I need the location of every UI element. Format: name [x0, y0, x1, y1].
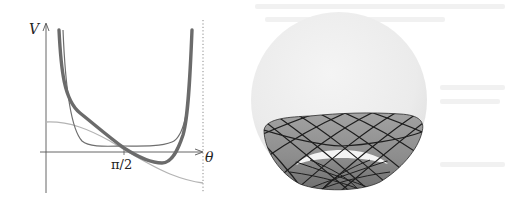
potential-plot-figure: V θ π/2 — [0, 0, 250, 207]
light-curve — [46, 122, 203, 183]
thin-curve — [63, 30, 192, 146]
y-axis-label: V — [29, 21, 41, 37]
sphere-lattice-figure — [250, 0, 511, 207]
sphere-lattice-svg — [250, 0, 511, 207]
lattice-band — [250, 105, 440, 200]
tick-label-pi-half: π/2 — [111, 157, 132, 172]
thick-curve — [59, 30, 192, 163]
x-axis-label: θ — [205, 149, 214, 165]
potential-plot-svg: V θ π/2 — [0, 0, 250, 207]
